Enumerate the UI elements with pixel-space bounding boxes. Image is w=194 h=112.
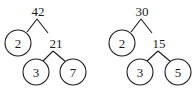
edge-15-to-3 xyxy=(147,51,158,61)
edge-42-to-21 xyxy=(37,19,48,33)
prime-leaf-label: 2 xyxy=(15,36,22,51)
edge-30-to-2 xyxy=(131,19,141,32)
root-node-label: 30 xyxy=(136,4,149,19)
factor-tree-42: 42 2 21 3 7 xyxy=(5,4,86,86)
edge-30-to-15 xyxy=(141,19,152,33)
edge-21-to-3 xyxy=(43,51,53,61)
factor-trees-diagram: 42 2 21 3 7 30 2 15 3 5 xyxy=(0,0,194,112)
prime-leaf-label: 3 xyxy=(33,65,40,80)
edge-42-to-2 xyxy=(27,19,37,32)
prime-leaf-label: 3 xyxy=(137,65,144,80)
composite-node-label: 15 xyxy=(153,36,166,51)
prime-leaf-label: 2 xyxy=(119,36,126,51)
prime-leaf-label: 5 xyxy=(175,65,182,80)
edge-21-to-7 xyxy=(53,51,66,62)
prime-leaf-label: 7 xyxy=(70,65,77,80)
edge-15-to-5 xyxy=(158,51,171,62)
factor-tree-30: 30 2 15 3 5 xyxy=(109,4,191,86)
composite-node-label: 21 xyxy=(50,36,63,51)
root-node-label: 42 xyxy=(32,4,45,19)
